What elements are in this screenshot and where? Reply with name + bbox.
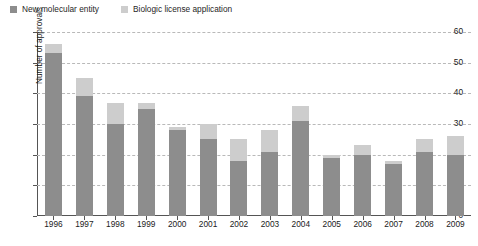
bar-group[interactable]: 2000 <box>162 32 193 216</box>
bar-stack[interactable] <box>447 136 464 216</box>
bar-stack[interactable] <box>200 124 217 216</box>
bar-segment-biologic-license-application[interactable] <box>230 139 247 160</box>
bar-segment-new-molecular-entity[interactable] <box>107 124 124 216</box>
bar-group[interactable]: 1998 <box>100 32 131 216</box>
bar-group[interactable]: 2005 <box>316 32 347 216</box>
bar-stack[interactable] <box>138 103 155 216</box>
bar-segment-new-molecular-entity[interactable] <box>261 152 278 216</box>
y-tick-mark <box>33 124 37 125</box>
y-tick-mark <box>33 93 37 94</box>
bar-group[interactable]: 2002 <box>224 32 255 216</box>
bar-group[interactable]: 1999 <box>131 32 162 216</box>
x-tick-label: 1999 <box>137 220 155 229</box>
bar-stack[interactable] <box>416 139 433 216</box>
bar-group[interactable]: 2009 <box>440 32 471 216</box>
bar-segment-new-molecular-entity[interactable] <box>169 130 186 216</box>
bar-segment-new-molecular-entity[interactable] <box>447 155 464 216</box>
bar-segment-biologic-license-application[interactable] <box>416 139 433 151</box>
y-tick-mark <box>33 216 37 217</box>
bar-segment-new-molecular-entity[interactable] <box>230 161 247 216</box>
bar-segment-new-molecular-entity[interactable] <box>354 155 371 216</box>
plot-area: 0102030405060 Number of approvals 199619… <box>37 32 471 216</box>
bar-group[interactable]: 2003 <box>254 32 285 216</box>
bar-group[interactable]: 2004 <box>285 32 316 216</box>
bar-stack[interactable] <box>261 130 278 216</box>
bar-stack[interactable] <box>354 145 371 216</box>
bar-segment-new-molecular-entity[interactable] <box>292 121 309 216</box>
x-tick-label: 2006 <box>353 220 371 229</box>
x-tick-label: 2008 <box>415 220 433 229</box>
bar-group[interactable]: 2007 <box>378 32 409 216</box>
bar-segment-new-molecular-entity[interactable] <box>385 164 402 216</box>
bar-segment-new-molecular-entity[interactable] <box>45 53 62 216</box>
bar-segment-new-molecular-entity[interactable] <box>138 109 155 216</box>
bar-segment-biologic-license-application[interactable] <box>354 145 371 154</box>
bar-stack[interactable] <box>76 78 93 216</box>
x-tick-label: 2002 <box>230 220 248 229</box>
bar-segment-biologic-license-application[interactable] <box>45 44 62 53</box>
x-tick-label: 1997 <box>75 220 93 229</box>
x-tick-label: 2005 <box>323 220 341 229</box>
y-tick-mark <box>33 155 37 156</box>
bar-segment-new-molecular-entity[interactable] <box>76 96 93 216</box>
bar-stack[interactable] <box>292 106 309 216</box>
bar-stack[interactable] <box>323 155 340 216</box>
bar-stack[interactable] <box>230 139 247 216</box>
y-tick-mark <box>33 185 37 186</box>
bar-stack[interactable] <box>107 103 124 216</box>
bar-stack[interactable] <box>45 44 62 216</box>
legend-swatch-icon <box>121 6 128 13</box>
x-tick-label: 2003 <box>261 220 279 229</box>
stacked-bar-chart: New molecular entityBiologic license app… <box>0 0 478 246</box>
bar-segment-biologic-license-application[interactable] <box>200 124 217 139</box>
x-tick-label: 2000 <box>168 220 186 229</box>
legend-entry[interactable]: New molecular entity <box>10 5 99 14</box>
bar-segment-new-molecular-entity[interactable] <box>200 139 217 216</box>
bar-segment-new-molecular-entity[interactable] <box>416 152 433 216</box>
bar-group[interactable]: 1996 <box>38 32 69 216</box>
legend-swatch-icon <box>10 6 17 13</box>
x-tick-label: 2007 <box>384 220 402 229</box>
legend-label: Biologic license application <box>133 5 232 14</box>
bar-segment-new-molecular-entity[interactable] <box>323 158 340 216</box>
x-tick-label: 1996 <box>44 220 62 229</box>
legend-entry[interactable]: Biologic license application <box>121 5 232 14</box>
bar-group[interactable]: 2008 <box>409 32 440 216</box>
bar-segment-biologic-license-application[interactable] <box>447 136 464 154</box>
x-tick-label: 2001 <box>199 220 217 229</box>
x-tick-label: 1998 <box>106 220 124 229</box>
bar-stack[interactable] <box>169 127 186 216</box>
bar-segment-biologic-license-application[interactable] <box>107 103 124 124</box>
x-tick-label: 2009 <box>446 220 464 229</box>
bar-group[interactable]: 1997 <box>69 32 100 216</box>
bar-segment-biologic-license-application[interactable] <box>76 78 93 96</box>
bar-group[interactable]: 2001 <box>193 32 224 216</box>
bar-segment-biologic-license-application[interactable] <box>292 106 309 121</box>
bar-series-group: 1996199719981999200020012002200320042005… <box>38 32 471 216</box>
bar-stack[interactable] <box>385 161 402 216</box>
bar-group[interactable]: 2006 <box>347 32 378 216</box>
x-tick-label: 2004 <box>292 220 310 229</box>
bar-segment-biologic-license-application[interactable] <box>261 130 278 151</box>
